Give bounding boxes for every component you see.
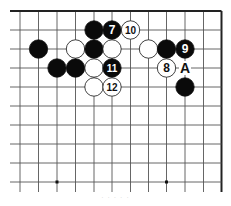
white-stone (139, 40, 157, 58)
black-stone (85, 40, 103, 58)
move-number: 12 (106, 82, 118, 93)
point-label-marker: A (180, 60, 190, 76)
black-stone (85, 21, 103, 39)
move-number: 10 (125, 25, 137, 36)
white-stone (66, 40, 84, 58)
hoshi-point (56, 181, 59, 184)
black-stone: 7 (103, 21, 121, 39)
black-stone (157, 40, 175, 58)
stones: 710911812 (29, 21, 194, 96)
white-stone: 10 (121, 21, 139, 39)
diagram-caption: · · · · · (0, 194, 231, 201)
white-stone: 8 (157, 59, 175, 77)
white-stone: 12 (103, 78, 121, 96)
black-stone: 11 (103, 59, 121, 77)
white-stone (103, 40, 121, 58)
white-stone (85, 78, 103, 96)
black-stone (48, 59, 66, 77)
move-number: 11 (107, 63, 118, 74)
move-number: 9 (182, 42, 189, 56)
black-stone (66, 59, 84, 77)
white-stone (85, 59, 103, 77)
move-number: 7 (109, 23, 116, 37)
black-stone: 9 (176, 40, 194, 58)
hoshi-point (165, 181, 168, 184)
black-stone (176, 78, 194, 96)
markers: A (179, 60, 191, 76)
move-number: 8 (163, 61, 170, 75)
go-board: 710911812 A (0, 0, 231, 206)
black-stone (29, 40, 47, 58)
